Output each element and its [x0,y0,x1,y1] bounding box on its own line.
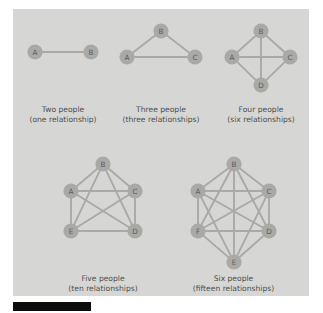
person-node-label: D [266,227,272,236]
person-node-label: A [33,48,38,57]
footer-black-bar [13,302,91,311]
relationship-edge [204,168,229,186]
diagram-caption-title: Four people [239,105,284,114]
diagram-caption-subtitle: (six relationships) [227,115,295,124]
relationship-edge [239,236,263,258]
person-node-label: B [89,48,94,57]
diagram-caption-title: Five people [81,274,125,283]
person-node-label: B [259,27,264,36]
person-node: D [261,223,276,238]
person-node: B [226,156,241,171]
person-node: A [27,44,42,59]
person-node: D [127,223,142,238]
relationship-edge [266,62,285,80]
relationship-edge [237,62,256,80]
person-node: C [261,183,276,198]
relationship-edge [133,35,156,52]
person-node: B [83,44,98,59]
person-node-label: A [196,187,201,196]
person-node-label: C [132,187,137,196]
relationship-edge [167,35,190,52]
edges-layer [42,35,285,257]
person-node-label: B [232,160,237,169]
relationship-edge [203,236,228,258]
person-node: A [190,183,205,198]
person-node: A [63,183,78,198]
person-node-label: A [69,187,74,196]
person-node-label: B [159,27,164,36]
relationship-edge [237,36,255,53]
nodes-layer: ABBACBACDBACEDBACFDE [27,23,297,269]
person-node-label: C [266,187,271,196]
diagram-caption-subtitle: (three relationships) [122,115,199,124]
diagram-caption-subtitle: (one relationship) [29,115,96,124]
person-node-label: F [196,227,200,236]
person-node-label: E [232,258,237,267]
person-node-label: B [101,160,106,169]
diagram-caption-subtitle: (ten relationships) [68,284,137,293]
person-node: A [119,49,134,64]
diagram-caption-title: Six people [214,274,254,283]
person-node: E [226,254,241,269]
person-node-label: D [258,81,264,90]
person-node: B [153,23,168,38]
person-node: C [187,49,202,64]
person-node: B [95,156,110,171]
relationship-edge [266,36,284,53]
person-node: B [253,23,268,38]
person-node: C [282,49,297,64]
person-node: C [127,183,142,198]
person-node-label: E [69,227,74,236]
person-node-label: C [287,53,292,62]
diagram-caption-subtitle: (fifteen relationships) [193,284,274,293]
diagram-caption-title: Two people [41,105,85,114]
person-node: A [224,49,239,64]
diagram-caption-title: Three people [135,105,186,114]
person-node: D [253,77,268,92]
person-node-label: A [230,53,235,62]
person-node: F [190,223,205,238]
person-node-label: D [132,227,138,236]
person-node-label: A [125,53,130,62]
person-node-label: C [192,53,197,62]
figure-root: ABBACBACDBACEDBACFDE Two people(one rela… [0,0,323,313]
relationship-diagrams-svg: ABBACBACDBACEDBACFDE Two people(one rela… [13,9,309,296]
person-node: E [63,223,78,238]
diagram-panel: ABBACBACDBACEDBACFDE Two people(one rela… [13,9,309,296]
relationship-edge [240,168,264,186]
